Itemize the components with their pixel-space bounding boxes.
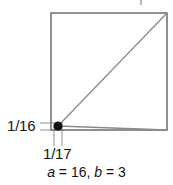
intersection-dot	[53, 121, 62, 130]
caption-var-a: a	[47, 164, 55, 180]
caption-val-a: 16	[71, 164, 87, 180]
y-axis-value-label: 1/16	[7, 118, 35, 133]
caption-eq-2: =	[102, 164, 118, 180]
caption-eq-1: =	[55, 164, 71, 180]
diagonal-line	[58, 13, 167, 126]
figure-caption: a = 16, b = 3	[0, 164, 173, 180]
caption-var-b: b	[94, 164, 102, 180]
geometry-figure	[0, 0, 173, 185]
caption-val-b: 3	[118, 164, 126, 180]
x-axis-value-label: 1/17	[43, 146, 71, 161]
